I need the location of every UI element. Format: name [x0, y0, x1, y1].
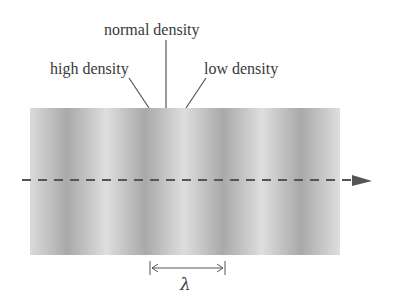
- annotation-layer: [0, 0, 404, 308]
- high-density-pointer: [129, 78, 149, 108]
- high-density-label: high density: [50, 61, 129, 77]
- arrowhead-icon: [352, 175, 372, 186]
- low-density-pointer: [186, 78, 206, 108]
- wavelength-symbol: λ: [180, 276, 191, 293]
- normal-density-label: normal density: [104, 22, 200, 38]
- low-density-label: low density: [204, 61, 278, 77]
